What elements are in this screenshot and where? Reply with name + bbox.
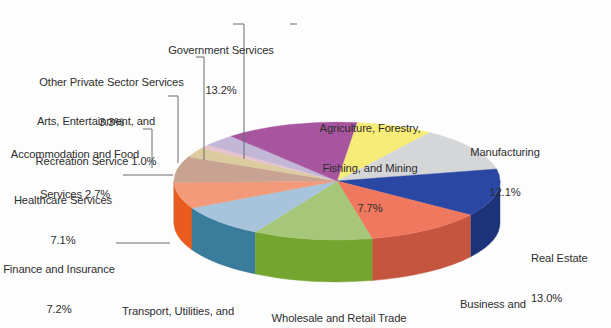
label-agriculture-value: 7.7%	[306, 202, 434, 215]
label-real-estate: Real Estate 13.0%	[531, 225, 609, 328]
label-finance-insurance-value: 7.2%	[3, 303, 115, 316]
label-agriculture-name2: Fishing, and Mining	[306, 162, 434, 175]
label-finance-insurance-name: Finance and Insurance	[3, 263, 115, 276]
label-real-estate-name: Real Estate	[531, 252, 609, 265]
label-accommodation-food-services-name: Accommodation and Food	[10, 148, 140, 161]
label-manufacturing: Manufacturing 12.1%	[444, 119, 566, 226]
label-manufacturing-value: 12.1%	[444, 186, 566, 199]
label-transport-utilities-communications: Transport, Utilities, and Communications…	[104, 278, 252, 328]
label-wholesale-retail-trade: Wholesale and Retail Trade 11.8%	[261, 285, 417, 328]
label-healthcare-services-name: Healthcare Services	[6, 194, 120, 207]
label-manufacturing-name: Manufacturing	[444, 146, 566, 159]
label-transport-utilities-communications-name: Transport, Utilities, and	[104, 305, 252, 318]
label-agriculture-forestry-fishing-mining: Agriculture, Forestry, Fishing, and Mini…	[306, 95, 434, 242]
chart-canvas: Government Services 13.2% Other Private …	[0, 0, 611, 328]
label-real-estate-value: 13.0%	[531, 292, 609, 305]
label-finance-insurance: Finance and Insurance 7.2%	[3, 236, 115, 328]
label-wholesale-retail-trade-name: Wholesale and Retail Trade	[261, 312, 417, 325]
label-agriculture-name: Agriculture, Forestry,	[306, 122, 434, 135]
